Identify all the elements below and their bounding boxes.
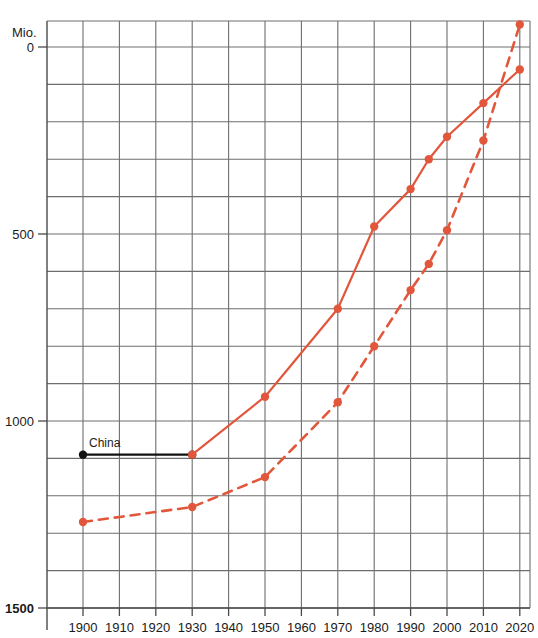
data-point-india <box>261 473 269 481</box>
data-point-china <box>370 222 378 230</box>
data-point-india <box>406 286 414 294</box>
y-axis-unit-label: Mio. <box>12 25 37 40</box>
x-axis-tick-label: 2020 <box>505 620 534 635</box>
data-point-china <box>479 99 487 107</box>
data-point-india <box>425 260 433 268</box>
data-point-india <box>188 503 196 511</box>
x-axis-tick-label: 1960 <box>287 620 316 635</box>
x-axis-tick-label: 1910 <box>105 620 134 635</box>
data-point-india <box>79 518 87 526</box>
data-point-india <box>479 136 487 144</box>
x-axis-tick-label: 1950 <box>251 620 280 635</box>
data-point-china <box>516 65 524 73</box>
data-point-india <box>334 398 342 406</box>
x-axis-tick-label: 1980 <box>360 620 389 635</box>
data-point-india <box>370 342 378 350</box>
chart-background <box>0 0 538 638</box>
x-axis-tick-label: 1920 <box>141 620 170 635</box>
data-point-india <box>443 226 451 234</box>
x-axis-tick-label: 1930 <box>178 620 207 635</box>
x-axis-tick-label: 1940 <box>214 620 243 635</box>
data-point-china <box>406 185 414 193</box>
x-axis-tick-label: 1990 <box>396 620 425 635</box>
y-axis-tick-label: 0 <box>27 40 34 55</box>
data-point-china <box>443 133 451 141</box>
annotation-endpoint-marker <box>79 450 87 458</box>
x-axis-tick-label: 1900 <box>69 620 98 635</box>
y-axis-tick-label: 1500 <box>5 601 34 616</box>
y-axis-tick-label: 500 <box>12 227 34 242</box>
data-point-china <box>425 155 433 163</box>
data-point-china <box>188 450 196 458</box>
data-point-china <box>334 305 342 313</box>
chart-canvas: 150010005000 190019101920193019401950196… <box>0 0 538 638</box>
population-line-chart: 150010005000 190019101920193019401950196… <box>0 0 538 638</box>
x-axis-tick-label: 2010 <box>469 620 498 635</box>
y-axis-tick-label: 1000 <box>5 414 34 429</box>
x-axis-tick-label: 1970 <box>323 620 352 635</box>
series-label-china: China <box>89 436 121 450</box>
data-point-china <box>261 392 269 400</box>
x-axis-tick-label: 2000 <box>433 620 462 635</box>
data-point-india <box>516 20 524 28</box>
